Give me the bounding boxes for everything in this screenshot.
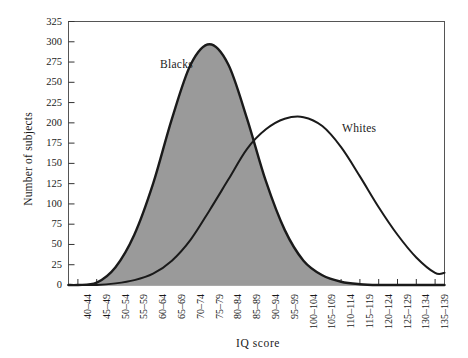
y-tick-label: 100	[34, 199, 62, 210]
series-label-whites: Whites	[342, 122, 376, 134]
y-tick-label: 150	[34, 158, 62, 169]
y-tick-label: 125	[34, 179, 62, 190]
x-tick-label: 45–49	[102, 294, 112, 348]
y-axis-ticks	[69, 22, 75, 286]
x-tick-label: 40–44	[83, 294, 93, 348]
x-tick-label: 50–54	[121, 294, 131, 348]
x-tick-label: 125–129	[403, 294, 413, 348]
y-tick-label: 250	[34, 77, 62, 88]
x-tick-label: 60–64	[158, 294, 168, 348]
x-tick-label: 65–69	[177, 294, 187, 348]
x-tick-label: 130–134	[421, 294, 431, 348]
series-blacks-area	[69, 44, 445, 285]
y-tick-label: 25	[34, 260, 62, 271]
y-tick-label: 325	[34, 17, 62, 28]
x-tick-label: 55–59	[139, 294, 149, 348]
y-tick-label: 225	[34, 98, 62, 109]
y-tick-label: 50	[34, 239, 62, 250]
x-tick-label: 110–114	[346, 294, 356, 348]
chart-container: Number of subjects 025507510012515017520…	[0, 0, 468, 358]
y-tick-label: 75	[34, 219, 62, 230]
y-tick-label: 175	[34, 138, 62, 149]
y-tick-label: 300	[34, 37, 62, 48]
y-tick-label: 200	[34, 118, 62, 129]
y-tick-label: 0	[34, 280, 62, 291]
y-tick-label: 275	[34, 57, 62, 68]
x-tick-label: 135–139	[440, 294, 450, 348]
x-tick-label: 105–109	[327, 294, 337, 348]
series-label-blacks: Blacks	[160, 58, 193, 70]
x-tick-label: 120–124	[384, 294, 394, 348]
x-axis-title: IQ score	[188, 337, 328, 349]
x-tick-label: 115–119	[365, 294, 375, 348]
